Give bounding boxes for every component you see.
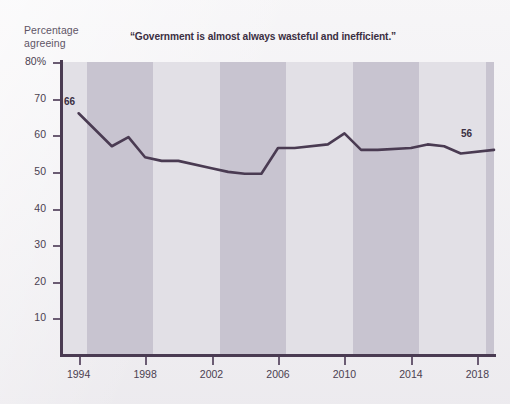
- y-axis-tick: [53, 99, 60, 101]
- x-axis-tick-label: 1998: [120, 368, 170, 380]
- x-axis-tick: [411, 357, 413, 365]
- x-axis-tick-label: 1994: [54, 368, 104, 380]
- y-axis-caption-line1: Percentage: [24, 24, 114, 37]
- plot-area: [62, 62, 494, 355]
- x-axis-tick: [79, 357, 81, 365]
- x-axis-tick-label: 2002: [187, 368, 237, 380]
- y-axis-tick: [53, 209, 60, 211]
- y-axis-tick-label: 70: [0, 92, 46, 104]
- y-axis-caption: Percentage agreeing: [24, 24, 114, 49]
- y-axis-tick-label: 40: [0, 202, 46, 214]
- x-axis-tick: [145, 357, 147, 365]
- data-line: [79, 113, 494, 173]
- y-axis-tick: [53, 282, 60, 284]
- x-axis-tick-label: 2006: [253, 368, 303, 380]
- chart-figure: Percentage agreeing “Government is almos…: [0, 0, 510, 404]
- x-axis-tick: [278, 357, 280, 365]
- x-axis-tick: [477, 357, 479, 365]
- x-axis-tick-label: 2010: [319, 368, 369, 380]
- y-axis-tick-label: 60: [0, 128, 46, 140]
- y-axis-tick-label: 50: [0, 165, 46, 177]
- y-axis-tick: [53, 135, 60, 137]
- x-axis-tick: [212, 357, 214, 365]
- y-axis-tick-label: 30: [0, 238, 46, 250]
- y-axis-line: [60, 60, 63, 357]
- x-axis-tick-label: 2018: [452, 368, 502, 380]
- chart-title: “Government is almost always wasteful an…: [113, 31, 413, 42]
- end-value-label: 56: [461, 128, 472, 139]
- y-axis-tick: [53, 318, 60, 320]
- y-axis-tick-label: 80%: [0, 55, 46, 67]
- y-axis-tick-label: 20: [0, 275, 46, 287]
- y-axis-caption-line2: agreeing: [24, 37, 114, 50]
- y-axis-tick-label: 10: [0, 311, 46, 323]
- x-axis-tick: [344, 357, 346, 365]
- x-axis-tick-label: 2014: [386, 368, 436, 380]
- y-axis-tick: [53, 62, 60, 64]
- y-axis-tick: [53, 172, 60, 174]
- y-axis-tick: [53, 245, 60, 247]
- start-value-label: 66: [64, 96, 75, 107]
- data-line-svg: [62, 62, 494, 355]
